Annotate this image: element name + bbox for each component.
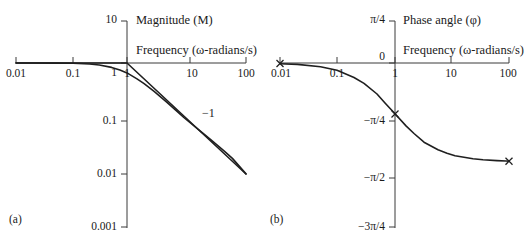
panel-b-xtick-label-2: 1 <box>392 68 398 80</box>
panel-a-xtick-label-1: 0.1 <box>66 68 80 80</box>
panel-a-slope-annotation: −1 <box>202 107 215 119</box>
panel-b-tag: (b) <box>270 214 283 226</box>
panel-a-ytick-label-4: 0.001 <box>80 221 117 233</box>
panel-b-svg <box>261 0 522 236</box>
panel-a-x-axis-title: Frequency (ω-radians/s) <box>136 44 257 57</box>
panel-b-phase-plot: 0.01 0.1 1 10 100 π/4 0 −π/4 −π/2 −3π/4 … <box>261 0 522 236</box>
panel-b-ytick-label-2: −π/4 <box>343 115 385 127</box>
panel-b-ytick-label-3: −π/2 <box>343 172 385 184</box>
panel-a-ytick-label-1: 1 <box>80 67 117 79</box>
panel-b-xtick-label-4: 100 <box>499 68 516 80</box>
panel-b-xtick-label-3: 10 <box>445 68 457 80</box>
panel-b-ytick-label-0: π/4 <box>343 14 385 26</box>
panel-b-ytick-label-4: −3π/4 <box>343 221 385 233</box>
panel-a-y-axis-title: Magnitude (M) <box>136 14 213 27</box>
panel-b-x-axis-title: Frequency (ω-radians/s) <box>403 44 524 57</box>
panel-a-xtick-label-4: 100 <box>237 68 254 80</box>
panel-a-xtick-label-3: 10 <box>186 68 198 80</box>
panel-a-xtick-label-2: 1 <box>124 68 130 80</box>
panel-a-svg <box>0 0 261 236</box>
panel-a-xtick-label-0: 0.01 <box>6 68 26 80</box>
panel-b-y-axis-title: Phase angle (φ) <box>403 14 481 27</box>
panel-a-ytick-label-0: 10 <box>80 14 117 26</box>
panel-b-xtick-label-1: 0.1 <box>330 68 344 80</box>
panel-b-ytick-label-1: 0 <box>343 51 385 63</box>
panel-a-ytick-label-3: 0.01 <box>80 168 117 180</box>
panel-b-xtick-label-0: 0.01 <box>271 68 291 80</box>
panel-a-tag: (a) <box>9 214 22 226</box>
panel-a-magnitude-plot: 0.01 0.1 1 10 100 10 1 0.1 0.01 0.001 Ma… <box>0 0 261 236</box>
panel-a-ytick-label-2: 0.1 <box>80 115 117 127</box>
